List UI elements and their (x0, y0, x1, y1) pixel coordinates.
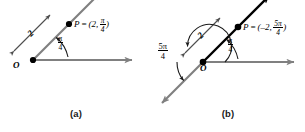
point-p-b (235, 24, 242, 31)
angle-arc-tail-b (177, 62, 184, 81)
angle-fraction-small-b: π 4 (228, 37, 234, 54)
point-name-a: P (74, 19, 80, 29)
diagram-b-graphic (152, 0, 304, 112)
point-label-a: P=(2,π4) (74, 17, 109, 34)
origin-point-a (30, 57, 36, 63)
point-equals-b: = (250, 22, 256, 32)
point-equals-a: = (81, 19, 87, 29)
point-r-b: –2 (261, 22, 270, 32)
polar-coordinates-figure: O 2 π 4 P=(2,π4) (a) (0, 0, 305, 132)
point-theta-fraction-b: 5π4 (273, 20, 283, 37)
origin-label-a: O (13, 61, 20, 70)
angle-label-small-b: π 4 (227, 37, 234, 54)
angle-label-a: π 4 (57, 35, 64, 52)
angle-label-large-b: 5π 4 (157, 42, 169, 61)
origin-label-b: O (200, 64, 207, 73)
point-name-b: P (243, 22, 249, 32)
point-theta-fraction-a: π4 (100, 17, 106, 34)
terminal-ray-b (162, 62, 203, 103)
angle-fraction-a: π 4 (58, 35, 64, 52)
caption-b: (b) (152, 108, 304, 119)
point-p-a (66, 21, 72, 27)
diagram-panel-a: O 2 π 4 P=(2,π4) (a) (0, 0, 152, 132)
point-close-paren-b: ) (283, 22, 286, 32)
angle-fraction-large-b: 5π 4 (158, 42, 169, 61)
caption-a: (a) (0, 108, 152, 119)
point-label-b: P=(–2,5π4) (243, 20, 286, 37)
diagram-panel-b: O 2 π 4 5π 4 P=(–2,5π4) (b) (152, 0, 304, 132)
point-comma-b: , (270, 22, 272, 32)
point-close-paren-a: ) (106, 19, 109, 29)
point-comma-a: , (96, 19, 98, 29)
